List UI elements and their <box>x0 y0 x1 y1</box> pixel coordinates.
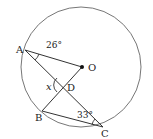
angle-label-26: 26° <box>46 40 62 50</box>
angle-label-x: x <box>46 81 52 92</box>
label-d: D <box>67 82 75 93</box>
angle-arc-26 <box>35 54 39 60</box>
label-c: C <box>101 128 109 139</box>
label-o: O <box>88 62 96 73</box>
label-b: B <box>35 112 42 123</box>
center-point-o <box>80 65 84 69</box>
geometry-diagram: A O D B C 26° 33° x <box>0 0 153 139</box>
angle-label-33: 33° <box>77 110 93 120</box>
label-a: A <box>15 44 24 55</box>
angle-arc-x <box>54 78 57 92</box>
